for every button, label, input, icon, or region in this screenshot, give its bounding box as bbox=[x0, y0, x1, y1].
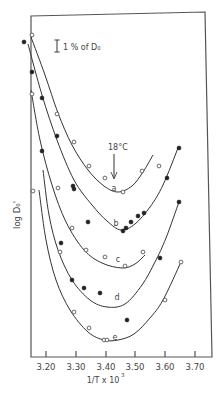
data-point-d bbox=[40, 149, 44, 153]
x-axis-ticks bbox=[46, 351, 195, 357]
data-point-a bbox=[55, 112, 59, 116]
data-point-d bbox=[158, 256, 162, 260]
data-point-c bbox=[30, 92, 34, 96]
data-point-b bbox=[136, 214, 140, 218]
tick-label: 3.30 bbox=[67, 362, 86, 372]
x-axis-tick-labels: 3.20 3.30 3.40 3.50 3.60 3.70 bbox=[37, 362, 205, 372]
tick-label: 3.60 bbox=[156, 362, 175, 372]
data-point-b bbox=[124, 226, 128, 230]
data-point-e bbox=[31, 189, 35, 193]
data-point-a bbox=[72, 140, 76, 144]
data-point-b bbox=[142, 211, 146, 215]
data-point-e bbox=[72, 310, 76, 314]
data-point-c bbox=[103, 255, 107, 259]
scale-bar: 1 % of D₀ bbox=[55, 40, 101, 52]
data-point-c bbox=[141, 250, 145, 254]
data-point-a bbox=[30, 33, 34, 37]
data-point-c bbox=[84, 248, 88, 252]
data-point-b bbox=[22, 40, 26, 44]
data-point-e bbox=[163, 298, 167, 302]
curve-label-e: e bbox=[113, 333, 118, 342]
tick-label: 3.20 bbox=[37, 362, 56, 372]
curve-e bbox=[39, 190, 181, 341]
data-point-b bbox=[129, 220, 133, 224]
curve-c bbox=[31, 90, 145, 268]
tick-label: 3.50 bbox=[126, 362, 145, 372]
data-point-d bbox=[70, 278, 74, 282]
tick-label: 3.70 bbox=[186, 362, 205, 372]
data-point-e bbox=[179, 260, 183, 264]
data-point-b bbox=[121, 229, 125, 233]
data-point-a bbox=[121, 190, 125, 194]
data-point-a bbox=[87, 164, 91, 168]
temperature-annotation: 18°C bbox=[108, 143, 128, 179]
data-point-e bbox=[125, 318, 129, 322]
data-point-d bbox=[98, 291, 102, 295]
x-axis-label-superscript: 3 bbox=[121, 372, 125, 378]
tick-label: 3.40 bbox=[97, 362, 116, 372]
curve-label-d: d bbox=[114, 293, 119, 302]
temperature-label: 18°C bbox=[108, 143, 128, 152]
data-point-c bbox=[123, 264, 127, 268]
data-point-d bbox=[177, 200, 181, 204]
data-point-e bbox=[58, 250, 62, 254]
data-point-e bbox=[105, 338, 109, 342]
data-point-a bbox=[157, 164, 161, 168]
data-point-d bbox=[59, 241, 63, 245]
scale-bar-label: 1 % of D₀ bbox=[63, 43, 100, 52]
data-point-b bbox=[40, 96, 44, 100]
data-point-c bbox=[70, 226, 74, 230]
x-axis-label: 1/T x 10 bbox=[87, 376, 120, 385]
data-point-d bbox=[82, 286, 86, 290]
curve-a bbox=[31, 37, 153, 192]
curve-label-b: b bbox=[113, 219, 118, 228]
data-point-b bbox=[86, 220, 90, 224]
data-point-b bbox=[165, 176, 169, 180]
data-point-b bbox=[177, 146, 181, 150]
data-point-e bbox=[87, 326, 91, 330]
data-point-c bbox=[56, 186, 60, 190]
curve-label-c: c bbox=[116, 255, 120, 264]
curve-b bbox=[28, 44, 178, 230]
curves-group bbox=[28, 37, 181, 341]
data-point-a bbox=[103, 176, 107, 180]
chart: 3.20 3.30 3.40 3.50 3.60 3.70 1/T x 10 3… bbox=[0, 0, 222, 400]
data-point-b bbox=[55, 134, 59, 138]
curve-labels: a b c d e bbox=[112, 184, 121, 342]
data-point-b bbox=[72, 187, 76, 191]
y-axis-label: log D₀' bbox=[12, 201, 22, 229]
curve-label-a: a bbox=[112, 184, 117, 193]
data-point-a bbox=[140, 169, 144, 173]
data-point-b bbox=[30, 70, 34, 74]
